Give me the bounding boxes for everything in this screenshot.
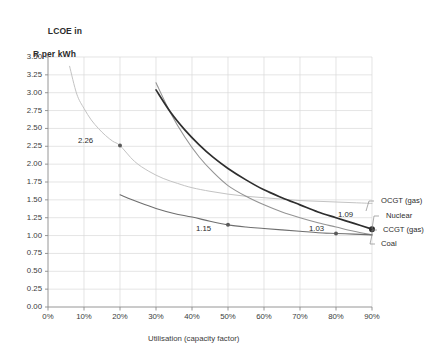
x-axis-tick-label: 50% [213, 313, 243, 321]
series-line-coal [120, 195, 372, 235]
y-axis-tick-label: 1.50 [12, 196, 42, 204]
x-axis-tick-label: 40% [177, 313, 207, 321]
y-axis-tick-label: 2.00 [12, 160, 42, 168]
x-axis-tick-label: 80% [321, 313, 351, 321]
x-axis-tick-label: 60% [249, 313, 279, 321]
data-point-label: 1.09 [338, 210, 353, 219]
y-axis-tick-label: 0.50 [12, 267, 42, 275]
data-point-marker [118, 144, 122, 148]
y-axis-tick-label: 3.25 [12, 71, 42, 79]
x-axis-tick-label: 90% [357, 313, 387, 321]
data-point-label: 1.03 [309, 224, 324, 233]
data-point-label: 2.26 [78, 136, 93, 145]
y-axis-tick-label: 0.25 [12, 285, 42, 293]
x-axis-tick-label: 30% [141, 313, 171, 321]
gridlines [48, 57, 372, 307]
x-axis-tick-label: 10% [69, 313, 99, 321]
y-axis-tick-label: 3.50 [12, 53, 42, 61]
y-axis-tick-label: 2.50 [12, 124, 42, 132]
data-point-marker [226, 223, 230, 227]
x-axis-tick-label: 20% [105, 313, 135, 321]
legend-label-nuclear: Nuclear [386, 211, 412, 220]
y-axis-tick-label: 0.75 [12, 249, 42, 257]
axes [45, 57, 372, 311]
series-group [70, 66, 372, 235]
x-axis-tick-label: 70% [285, 313, 315, 321]
chart-title: LCOE in R per kWh [38, 14, 82, 83]
data-point-marker [334, 231, 338, 235]
x-axis-caption: Utilisation (capacity factor) [148, 334, 239, 343]
legend-label-coal: Coal [381, 239, 397, 248]
y-axis-tick-label: 3.00 [12, 89, 42, 97]
leader-ocgt [366, 201, 374, 211]
legend-leader-lines [366, 201, 379, 244]
series-line-ocgt-gas [70, 66, 372, 203]
data-point-label: 1.15 [196, 224, 211, 233]
legend-label-ccgt-gas: CCGT (gas) [383, 225, 424, 234]
y-axis-tick-label: 1.00 [12, 232, 42, 240]
y-axis-tick-label: 1.25 [12, 214, 42, 222]
y-axis-tick-label: 0.00 [12, 303, 42, 311]
x-axis-tick-label: 0% [33, 313, 63, 321]
chart-title-line1: LCOE in [48, 26, 82, 36]
y-axis-tick-label: 2.25 [12, 142, 42, 150]
legend-label-ocgt-gas: OCGT (gas) [381, 196, 422, 205]
y-axis-tick-label: 1.75 [12, 178, 42, 186]
leader-coal [370, 235, 375, 244]
y-axis-tick-label: 2.75 [12, 107, 42, 115]
annotation-markers [118, 144, 375, 236]
